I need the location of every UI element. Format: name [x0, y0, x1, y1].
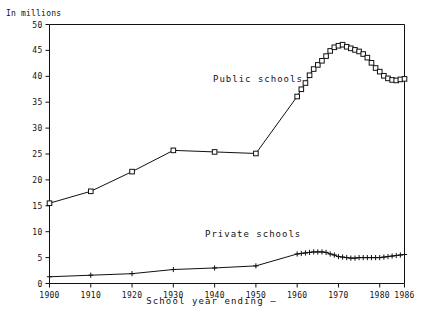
svg-text:40: 40	[32, 72, 42, 81]
series-label-private-schools: Private schools	[205, 229, 301, 239]
series-label-public-schools: Public schools	[213, 74, 303, 84]
chart-container: In millions 05101520253035404550 1900191…	[0, 0, 423, 319]
svg-text:50: 50	[32, 21, 42, 30]
svg-text:45: 45	[32, 46, 42, 55]
svg-text:0: 0	[37, 280, 42, 289]
svg-text:35: 35	[32, 98, 42, 107]
svg-text:30: 30	[32, 124, 42, 133]
line-chart-plot: 05101520253035404550 1900191019201930194…	[0, 0, 423, 319]
plot-frame	[50, 25, 405, 284]
y-axis-tick-group: 05101520253035404550	[32, 21, 49, 289]
svg-text:15: 15	[32, 202, 42, 211]
svg-text:10: 10	[32, 228, 42, 237]
x-axis-title: School year ending –	[0, 296, 423, 306]
svg-text:25: 25	[32, 150, 42, 159]
svg-text:5: 5	[37, 254, 42, 263]
svg-text:20: 20	[32, 176, 42, 185]
